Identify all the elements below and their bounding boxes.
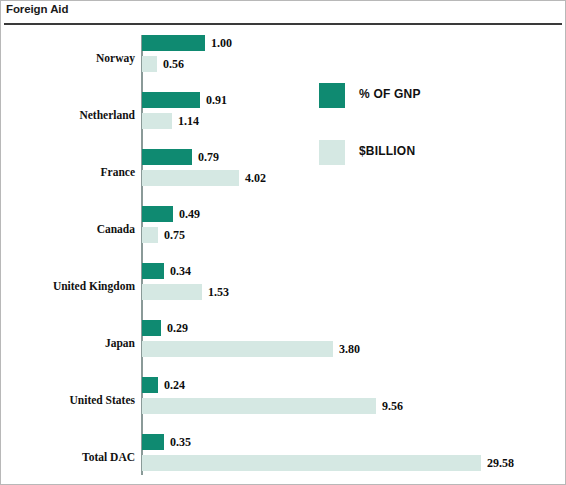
category-label: Norway — [1, 52, 135, 64]
bar-billion — [142, 227, 158, 243]
bar-billion — [142, 284, 202, 300]
bar-gnp — [142, 377, 158, 393]
bar-value-label: 0.29 — [167, 320, 188, 336]
bar-group: Canada0.490.75 — [1, 206, 566, 258]
category-label: Netherland — [1, 109, 135, 121]
bar-billion — [142, 170, 239, 186]
bar-value-label: 1.14 — [178, 113, 199, 129]
chart-legend: % OF GNP $BILLION — [319, 83, 539, 179]
category-label: United States — [1, 394, 135, 406]
bar-value-label: 9.56 — [382, 398, 403, 414]
bar-value-label: 4.02 — [245, 170, 266, 186]
header-divider — [4, 23, 562, 25]
category-label: Japan — [1, 337, 135, 349]
bar-gnp — [142, 263, 164, 279]
bar-group: United Kingdom0.341.53 — [1, 263, 566, 315]
legend-swatch-billion — [319, 140, 345, 165]
foreign-aid-chart-page: Foreign Aid Norway1.000.56Netherland0.91… — [0, 0, 566, 485]
legend-label-gnp: % OF GNP — [359, 87, 421, 101]
bar-group: Japan0.293.80 — [1, 320, 566, 372]
bar-group: United States0.249.56 — [1, 377, 566, 429]
bar-gnp — [142, 35, 205, 51]
category-label: France — [1, 166, 135, 178]
bar-value-label: 0.79 — [198, 149, 219, 165]
bar-value-label: 0.56 — [163, 56, 184, 72]
bar-gnp — [142, 206, 173, 222]
bar-value-label: 0.49 — [179, 206, 200, 222]
bar-value-label: 0.34 — [170, 263, 191, 279]
category-label: United Kingdom — [1, 280, 135, 292]
bar-value-label: 0.75 — [164, 227, 185, 243]
bar-value-label: 1.53 — [208, 284, 229, 300]
category-label: Total DAC — [1, 451, 135, 463]
bar-billion — [142, 455, 481, 471]
category-label: Canada — [1, 223, 135, 235]
bar-billion — [142, 56, 157, 72]
bar-value-label: 0.91 — [206, 92, 227, 108]
legend-label-billion: $BILLION — [359, 144, 415, 158]
chart-plot-area: Norway1.000.56Netherland0.911.14France0.… — [1, 27, 566, 485]
bar-gnp — [142, 320, 161, 336]
bar-value-label: 0.24 — [164, 377, 185, 393]
page-title: Foreign Aid — [6, 3, 68, 15]
bar-value-label: 1.00 — [211, 35, 232, 51]
bar-group: Total DAC0.3529.58 — [1, 434, 566, 485]
bar-billion — [142, 113, 172, 129]
bar-gnp — [142, 434, 164, 450]
bar-value-label: 3.80 — [339, 341, 360, 357]
chart-header: Foreign Aid — [1, 1, 566, 27]
bar-billion — [142, 341, 333, 357]
bar-gnp — [142, 149, 192, 165]
bar-group: Norway1.000.56 — [1, 35, 566, 87]
bar-value-label: 0.35 — [170, 434, 191, 450]
bar-value-label: 29.58 — [487, 455, 514, 471]
legend-swatch-gnp — [319, 83, 345, 108]
bar-billion — [142, 398, 376, 414]
bar-gnp — [142, 92, 200, 108]
